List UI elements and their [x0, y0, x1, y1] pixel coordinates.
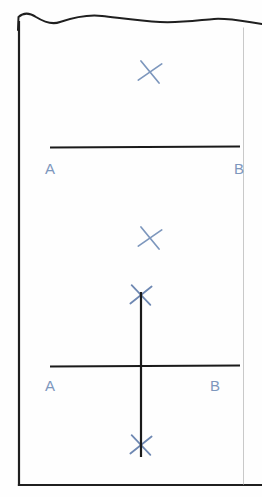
- label-a-step-two: A: [45, 377, 55, 394]
- label-a-step-one: A: [45, 160, 55, 177]
- arc-intersection-upper-free-icon: [138, 227, 161, 249]
- label-b-step-two: B: [210, 377, 220, 394]
- segment-ab-step-two: [50, 366, 240, 367]
- segment-ab-step-one: [50, 147, 240, 148]
- step-one-group: A B: [45, 61, 244, 177]
- arc-intersection-top-icon: [138, 61, 161, 83]
- construction-figure: A B A B: [0, 0, 262, 497]
- step-two-group: A B: [45, 227, 240, 457]
- worksheet-page: Perpendicular Bisector Construction A B: [0, 0, 262, 497]
- label-b-step-one: B: [234, 160, 244, 177]
- torn-top-edge-icon: [18, 14, 262, 30]
